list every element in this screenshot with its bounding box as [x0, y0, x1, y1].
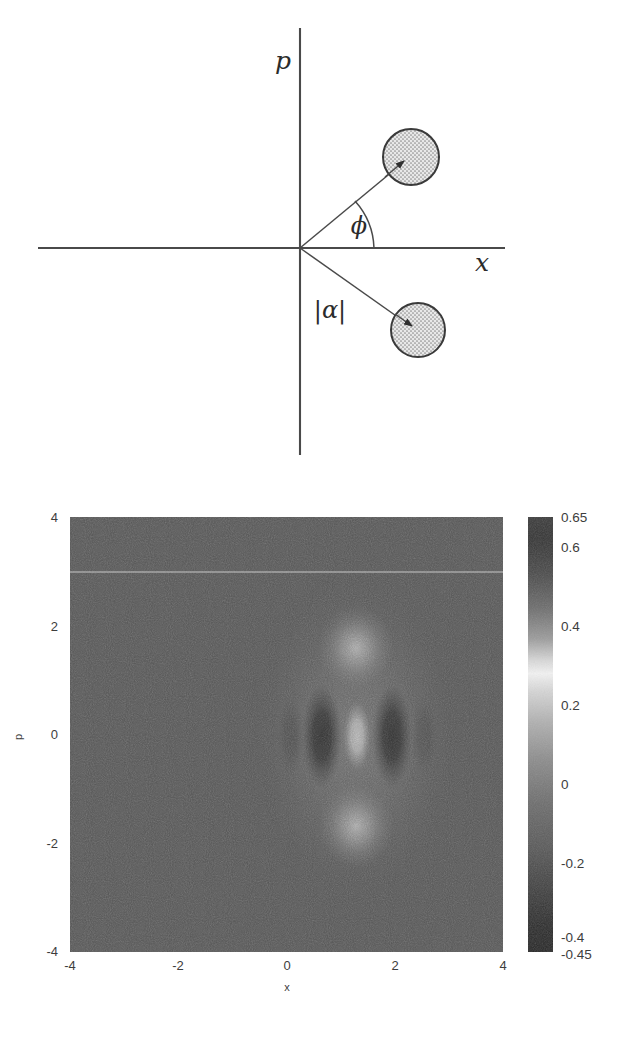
ytick-0: 4: [51, 510, 58, 525]
wigner-function-figure: -4 -2 0 2 4 x 4 2 0 -2 -4 p 0.65 0.6 0.4: [0, 470, 617, 1040]
ytick-3: -2: [46, 836, 58, 851]
cbar-tick-0: 0.65: [561, 510, 587, 525]
wigner-image-area: [70, 517, 503, 952]
x-axis-title: x: [284, 981, 290, 993]
cbar-tick-7: -0.45: [561, 947, 592, 962]
xtick-3: 2: [391, 958, 398, 973]
upper-amplitude-arrow: [300, 166, 399, 248]
figure-page: p x ϕ |α|: [0, 0, 617, 1040]
xtick-1: -2: [172, 958, 184, 973]
xtick-0: -4: [64, 958, 76, 973]
phi-angle-label: ϕ: [351, 212, 367, 240]
alpha-magnitude-label: |α|: [314, 296, 346, 325]
cbar-tick-4: 0: [561, 777, 569, 792]
y-axis-title: p: [12, 734, 24, 740]
cbar-tick-5: -0.2: [561, 856, 584, 871]
cbar-tick-2: 0.4: [561, 619, 580, 634]
phase-space-schematic: p x ϕ |α|: [0, 0, 617, 470]
cbar-tick-6: -0.4: [561, 930, 585, 945]
cbar-tick-1: 0.6: [561, 540, 580, 555]
coherent-state-blob-upper: [383, 129, 439, 185]
ytick-4: -4: [46, 944, 58, 959]
colorbar: [528, 517, 553, 952]
xtick-2: 0: [283, 958, 290, 973]
coherent-state-blob-lower: [391, 303, 445, 357]
ytick-1: 2: [51, 619, 58, 634]
p-axis-label: p: [275, 46, 291, 75]
ytick-2: 0: [51, 727, 58, 742]
cbar-tick-3: 0.2: [561, 698, 580, 713]
x-axis-label: x: [475, 248, 489, 277]
xtick-4: 4: [499, 958, 506, 973]
